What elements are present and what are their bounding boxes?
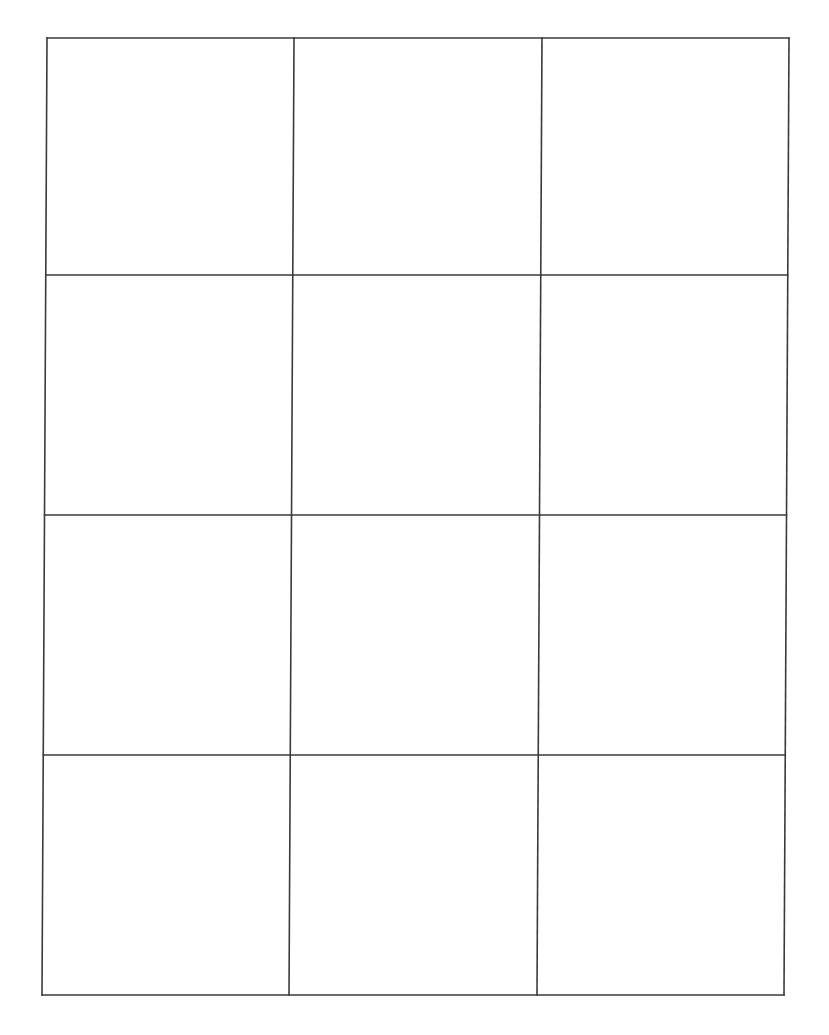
grid-cell-r4-c1: [42, 755, 290, 995]
grid-cell-r4-c2: [289, 755, 538, 995]
grid-cells: [42, 38, 789, 995]
grid-cell-r3-c3: [538, 515, 786, 755]
grid-cell-r2-c2: [292, 275, 541, 515]
document-page: [0, 0, 829, 1035]
grid-cell-r1-c2: [293, 38, 542, 275]
grid-cell-r3-c1: [43, 515, 291, 755]
grid-cell-r1-c3: [541, 38, 789, 275]
grid-cell-r3-c2: [290, 515, 539, 755]
grid-cell-r1-c1: [46, 38, 294, 275]
grid-cell-r2-c3: [540, 275, 788, 515]
grid-table: [0, 0, 829, 1035]
grid-cell-r4-c3: [537, 755, 785, 995]
grid-cell-r2-c1: [45, 275, 293, 515]
